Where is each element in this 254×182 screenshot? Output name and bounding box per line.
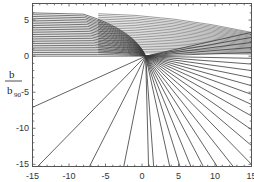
outgoing-trajectory: [146, 56, 252, 145]
x-tick-label: 0: [139, 171, 144, 181]
trajectory-lines: [33, 13, 252, 167]
outgoing-trajectory: [146, 56, 170, 166]
x-tick-label: -10: [62, 171, 75, 181]
y-axis-label: b b 90: [5, 68, 22, 99]
x-tick-label: 15: [246, 171, 254, 181]
outgoing-trajectory: [38, 56, 146, 166]
x-axis-tick-labels: -15-10-5051015: [26, 171, 254, 181]
outgoing-trajectory: [89, 56, 145, 166]
y-tick-label: -5: [21, 87, 29, 97]
trajectory-chart: -15-10-5051015 50-5-10-15 b b 90: [0, 0, 254, 182]
outgoing-trajectory: [146, 56, 252, 164]
y-axis-label-denominator: b: [7, 84, 13, 96]
y-tick-label: 0: [24, 51, 29, 61]
y-axis-label-numerator: b: [9, 68, 15, 80]
x-tick-label: 10: [210, 171, 220, 181]
outgoing-trajectory: [33, 56, 146, 107]
y-tick-label: -15: [16, 159, 29, 169]
x-tick-label: 5: [176, 171, 181, 181]
x-tick-label: -5: [101, 171, 109, 181]
outgoing-trajectory: [124, 56, 146, 166]
y-tick-label: 5: [24, 15, 29, 25]
y-axis-label-subscript: 90: [14, 91, 22, 99]
outgoing-trajectory: [146, 56, 234, 166]
y-tick-label: -10: [16, 123, 29, 133]
x-tick-label: -15: [26, 171, 39, 181]
outgoing-trajectory: [146, 56, 252, 94]
